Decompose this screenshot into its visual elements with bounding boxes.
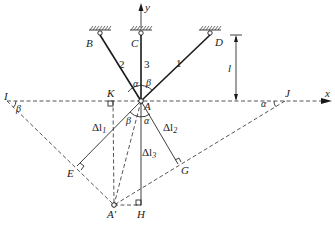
angle-alpha-low: α — [144, 115, 150, 126]
angle-beta-top: β — [145, 77, 151, 88]
angle-beta-I: β — [15, 103, 21, 114]
x-axis-label: x — [324, 87, 330, 99]
node-A-prime — [112, 203, 117, 208]
angle-arc-J — [274, 101, 276, 107]
y-axis-label: y — [144, 1, 150, 13]
label-H: H — [136, 208, 146, 220]
label-dl3: Δl3 — [142, 146, 156, 160]
angle-alpha-J: α — [261, 98, 267, 109]
label-dl2: Δl2 — [163, 121, 177, 135]
angle-alpha-top: α — [133, 78, 139, 89]
bar-1-label: 1 — [176, 57, 182, 69]
angle-beta-low: β — [125, 115, 131, 126]
right-angle-K — [108, 101, 113, 106]
label-K: K — [106, 87, 115, 99]
bar-2-label: 2 — [119, 58, 125, 70]
right-angle-H — [136, 200, 141, 205]
label-dl1: Δl1 — [92, 121, 106, 135]
line-I-Aprime — [7, 101, 114, 205]
line-K-Aprime — [113, 101, 114, 205]
dimension-l-label: l — [228, 62, 231, 74]
label-G: G — [181, 164, 189, 176]
label-J: J — [285, 87, 291, 99]
support-D: D — [199, 26, 223, 48]
node-A — [139, 99, 144, 104]
label-D: D — [214, 36, 223, 48]
right-angle-E — [80, 163, 84, 170]
label-I: I — [3, 90, 9, 102]
bar-3-label: 3 — [144, 58, 150, 70]
x-axis: x — [7, 87, 332, 104]
bar-2-extension — [77, 101, 141, 166]
label-B: B — [86, 37, 93, 49]
y-axis: y — [139, 1, 151, 28]
label-A: A — [143, 100, 151, 112]
dimension-l: l — [228, 35, 242, 101]
label-A-prime: A′ — [106, 208, 117, 220]
truss-diagram: x y B C — [0, 0, 335, 227]
label-C: C — [131, 37, 139, 49]
right-angle-G — [175, 158, 181, 162]
label-E: E — [66, 167, 74, 179]
